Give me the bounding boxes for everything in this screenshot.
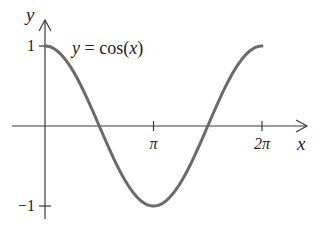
y-axis-label: y	[24, 4, 35, 25]
y-tick-label: 1	[27, 37, 35, 54]
annotation-y: y	[70, 38, 80, 58]
x-axis-label: x	[296, 133, 306, 154]
function-annotation: y = cos(x)	[70, 38, 143, 59]
chart: y x π2π 1−1 y = cos(x)	[0, 0, 321, 241]
x-tick-label: 2π	[254, 135, 271, 152]
annotation-x: x	[128, 38, 137, 58]
x-tick-label: π	[149, 135, 158, 152]
y-tick-label: −1	[18, 197, 35, 214]
annotation-close: )	[137, 38, 143, 59]
annotation-eq-cos: = cos(	[80, 38, 129, 59]
